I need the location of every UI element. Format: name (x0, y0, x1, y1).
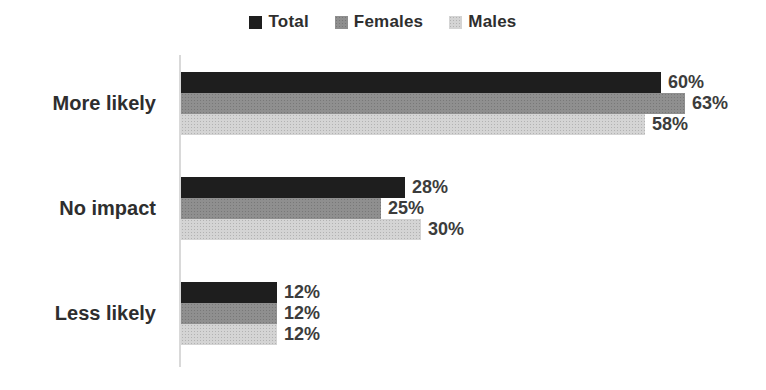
value-label: 58% (652, 114, 688, 135)
bar-row: 25% (181, 198, 464, 219)
value-label: 12% (284, 324, 320, 345)
y-axis-line (179, 55, 181, 367)
bar-row: 12% (181, 324, 320, 345)
bar-stack: 60%63%58% (181, 72, 728, 135)
bar-chart: Total Females Males More likely60%63%58%… (0, 0, 766, 390)
value-label: 28% (412, 177, 448, 198)
legend-label-total: Total (268, 12, 308, 32)
legend-swatch-total (249, 16, 262, 29)
category-label: No impact (0, 197, 168, 220)
legend-item-females: Females (335, 12, 423, 32)
bar-group: More likely60%63%58% (0, 72, 766, 135)
value-label: 25% (388, 198, 424, 219)
legend-label-males: Males (468, 12, 516, 32)
bar-row: 12% (181, 282, 320, 303)
bar-males (181, 324, 277, 345)
legend-swatch-females (335, 16, 348, 29)
bar-row: 58% (181, 114, 728, 135)
bar-group: No impact28%25%30% (0, 177, 766, 240)
bar-row: 30% (181, 219, 464, 240)
bar-stack: 12%12%12% (181, 282, 320, 345)
value-label: 63% (692, 93, 728, 114)
bar-total (181, 282, 277, 303)
bar-group: Less likely12%12%12% (0, 282, 766, 345)
category-label: More likely (0, 92, 168, 115)
value-label: 12% (284, 303, 320, 324)
legend-item-males: Males (449, 12, 516, 32)
legend-label-females: Females (354, 12, 423, 32)
plot-area: More likely60%63%58%No impact28%25%30%Le… (0, 55, 766, 367)
chart-legend: Total Females Males (0, 12, 766, 32)
bar-females (181, 198, 381, 219)
bar-row: 60% (181, 72, 728, 93)
bar-total (181, 177, 405, 198)
value-label: 30% (428, 219, 464, 240)
bar-row: 63% (181, 93, 728, 114)
legend-item-total: Total (249, 12, 308, 32)
bar-row: 28% (181, 177, 464, 198)
bar-males (181, 219, 421, 240)
bar-stack: 28%25%30% (181, 177, 464, 240)
bar-females (181, 303, 277, 324)
bar-row: 12% (181, 303, 320, 324)
value-label: 60% (668, 72, 704, 93)
bar-males (181, 114, 645, 135)
value-label: 12% (284, 282, 320, 303)
legend-swatch-males (449, 16, 462, 29)
category-label: Less likely (0, 302, 168, 325)
bar-total (181, 72, 661, 93)
bar-females (181, 93, 685, 114)
bar-groups: More likely60%63%58%No impact28%25%30%Le… (0, 72, 766, 345)
